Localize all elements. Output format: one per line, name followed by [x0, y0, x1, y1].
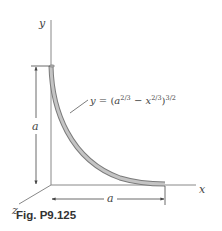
x-axis-label: x	[199, 183, 206, 196]
figure-caption: Fig. P9.125	[16, 209, 76, 221]
curved-rod-highlight	[51, 66, 165, 184]
vertical-dim-label: a	[32, 120, 39, 133]
curve-equation: y = (a2/3 − x2/3)3/2	[89, 94, 176, 106]
y-axis-label: y	[38, 17, 46, 30]
horizontal-dim-label: a	[107, 192, 114, 205]
rod-end-top	[50, 65, 55, 67]
z-axis	[19, 185, 51, 204]
equation-leader	[70, 100, 88, 113]
figure-diagram: y x z a a y = (a2/3 − x2/3)3/2	[0, 0, 222, 231]
curved-rod	[51, 66, 165, 184]
